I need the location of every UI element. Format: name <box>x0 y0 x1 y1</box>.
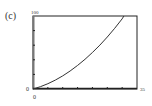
x-max-label: 35 <box>140 87 146 92</box>
panel-label: (c) <box>5 10 16 22</box>
y-max-label: 100 <box>31 10 39 15</box>
y-min-label: 0 <box>26 86 29 92</box>
plot-frame <box>33 16 137 89</box>
x-min-label: 0 <box>33 94 36 100</box>
chart: (c) 100 0 0 35 <box>0 0 152 106</box>
series-curve <box>33 16 124 89</box>
